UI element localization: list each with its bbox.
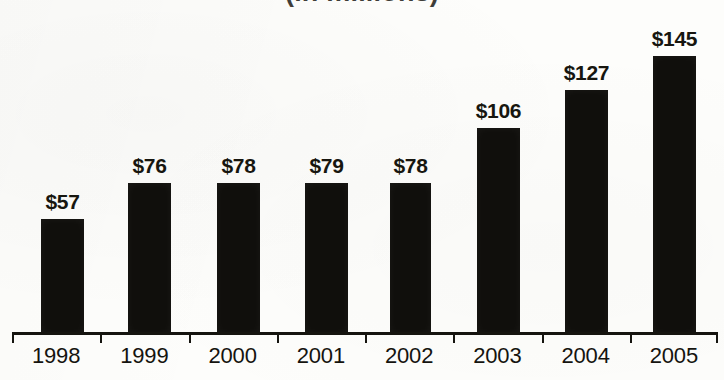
bar-value-label-2004: $127 bbox=[564, 61, 610, 85]
bar-1998 bbox=[41, 219, 84, 334]
bar-value-label-2002: $78 bbox=[393, 154, 427, 178]
axis-tick bbox=[716, 332, 718, 343]
bar-group: $76 bbox=[128, 153, 171, 334]
x-axis-category-labels: 19981999200020012002200320042005 bbox=[0, 343, 724, 377]
bar-group: $78 bbox=[390, 153, 431, 334]
bar-2002 bbox=[390, 183, 431, 334]
bar-value-label-2000: $78 bbox=[221, 154, 255, 178]
bar-value-label-2001: $79 bbox=[309, 154, 343, 178]
axis-tick bbox=[12, 332, 14, 343]
plot-area: $57$76$78$79$78$106$127$145 bbox=[0, 0, 724, 334]
axis-tick bbox=[630, 332, 632, 343]
bar-2001 bbox=[305, 183, 348, 334]
bar-2000 bbox=[217, 183, 260, 334]
bar-value-label-2005: $145 bbox=[652, 27, 698, 51]
category-label-2004: 2004 bbox=[542, 343, 630, 369]
bar-group: $106 bbox=[477, 98, 520, 334]
bar-value-label-2003: $106 bbox=[476, 99, 522, 123]
bar-chart-figure: (in millions) $57$76$78$79$78$106$127$14… bbox=[0, 0, 724, 380]
bar-group: $57 bbox=[41, 189, 84, 334]
category-label-2001: 2001 bbox=[277, 343, 365, 369]
bar-2005 bbox=[653, 56, 696, 334]
axis-tick bbox=[453, 332, 455, 343]
category-label-2000: 2000 bbox=[189, 343, 277, 369]
bar-group: $79 bbox=[305, 153, 348, 334]
bar-group: $127 bbox=[565, 60, 608, 334]
bar-group: $145 bbox=[653, 26, 696, 334]
bar-1999 bbox=[128, 183, 171, 334]
axis-tick bbox=[365, 332, 367, 343]
category-label-2002: 2002 bbox=[365, 343, 453, 369]
bar-value-label-1999: $76 bbox=[132, 154, 166, 178]
category-label-1998: 1998 bbox=[12, 343, 100, 369]
bar-group: $78 bbox=[217, 153, 260, 334]
category-label-2003: 2003 bbox=[453, 343, 541, 369]
bar-2004 bbox=[565, 90, 608, 334]
category-label-1999: 1999 bbox=[100, 343, 188, 369]
category-label-2005: 2005 bbox=[630, 343, 718, 369]
axis-tick bbox=[277, 332, 279, 343]
bar-value-label-1998: $57 bbox=[45, 190, 79, 214]
bar-2003 bbox=[477, 128, 520, 334]
axis-tick bbox=[100, 332, 102, 343]
axis-tick bbox=[189, 332, 191, 343]
axis-tick bbox=[542, 332, 544, 343]
